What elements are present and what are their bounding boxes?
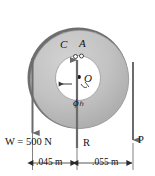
label-force-p: P [138, 135, 144, 146]
mechanics-figure: C A O ϕₕ W = 500 N R P .045 m .055 m [0, 0, 155, 176]
label-point-c: C [60, 39, 67, 50]
label-dimension-left: .045 m [36, 158, 62, 168]
figure-canvas [0, 0, 155, 176]
label-center-o: O [84, 73, 92, 84]
label-force-w: W = 500 N [5, 137, 52, 148]
label-angle-phi: ϕₕ [73, 97, 83, 108]
label-dimension-right: .055 m [92, 158, 118, 168]
point-a-marker [80, 54, 84, 58]
label-point-a: A [79, 38, 86, 49]
label-force-r: R [83, 138, 90, 149]
point-c-marker [74, 55, 78, 59]
